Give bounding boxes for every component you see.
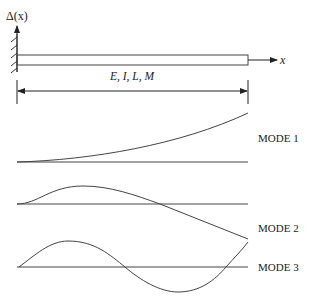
mode-2-label: MODE 2	[258, 222, 299, 234]
fixed-support-hatch-icon	[11, 34, 17, 73]
cantilever-mode-shapes-diagram: Δ(x) x E, I, L, M MODE 1 MODE 2 MODE 3	[0, 0, 313, 305]
length-dimension-line	[17, 80, 248, 104]
mode-3-label: MODE 3	[258, 261, 299, 273]
mode-1-label: MODE 1	[258, 132, 299, 144]
mode-1-shape	[17, 113, 248, 162]
x-axis-label: x	[279, 53, 286, 67]
beam	[17, 55, 248, 65]
displacement-axis-label: Δ(x)	[6, 9, 28, 23]
beam-properties-label: E, I, L, M	[109, 70, 156, 83]
mode-3-shape	[17, 241, 248, 292]
mode-2-shape	[17, 186, 248, 239]
